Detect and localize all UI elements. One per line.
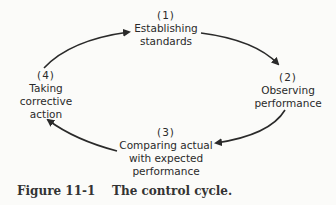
arrow-4-to-1 — [44, 32, 129, 68]
node-number: (3) — [112, 126, 220, 139]
node-number: (2) — [245, 71, 331, 84]
figure-caption: Figure 11-1 The control cycle. — [17, 184, 232, 198]
node-label-line: performance — [112, 165, 220, 178]
node-number: (1) — [118, 9, 214, 22]
node-number: (4) — [10, 69, 82, 82]
node-observing-performance: (2) Observing performance — [245, 71, 331, 110]
node-taking-corrective-action: (4) Taking corrective action — [10, 69, 82, 121]
arrow-3-to-4 — [48, 120, 117, 151]
node-label-line: with expected — [112, 152, 220, 165]
figure-label: Figure 11-1 — [17, 184, 95, 198]
node-label-line: Observing — [245, 84, 331, 97]
node-label-line: standards — [118, 35, 214, 48]
node-label-line: Taking — [10, 82, 82, 95]
node-label-line: Comparing actual — [112, 139, 220, 152]
node-label-line: performance — [245, 97, 331, 110]
node-label-line: corrective — [10, 95, 82, 108]
node-label-line: action — [10, 108, 82, 121]
node-comparing-actual: (3) Comparing actual with expected perfo… — [112, 126, 220, 178]
figure-title: The control cycle. — [112, 184, 232, 198]
node-establishing-standards: (1) Establishing standards — [118, 9, 214, 48]
arrow-2-to-3 — [216, 110, 285, 143]
node-label-line: Establishing — [118, 22, 214, 35]
